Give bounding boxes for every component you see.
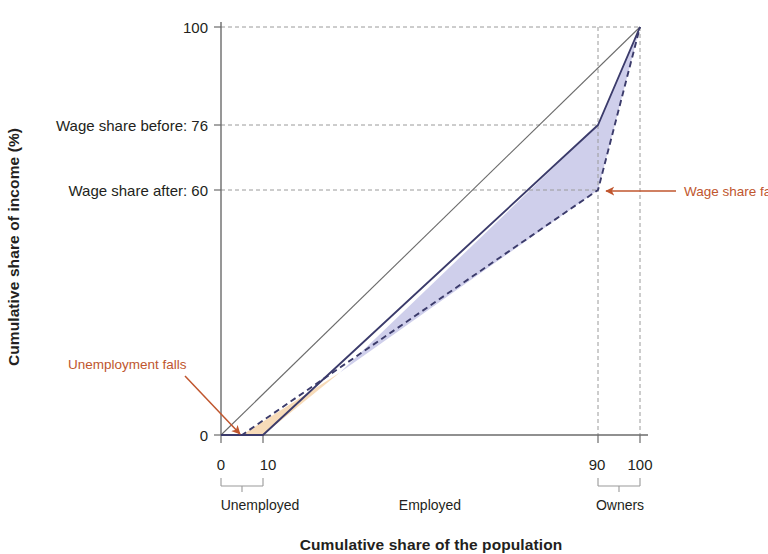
annotation-unemployment-falls-arrow (185, 376, 240, 434)
group-label-employed: Employed (399, 497, 461, 513)
equality-line (221, 27, 640, 435)
y-tick-label-60: Wage share after: 60 (68, 182, 208, 199)
x-tick-label-0: 0 (217, 456, 225, 473)
annotation-wage-share-falls-label: Wage share falls (684, 184, 768, 199)
x-tick-label-10: 10 (260, 456, 277, 473)
region-wage-share-falls (340, 27, 640, 373)
y-tick-label-76: Wage share before: 76 (56, 117, 208, 134)
x-tick-label-90: 90 (589, 456, 606, 473)
lorenz-curve-svg: 100 Wage share before: 76 Wage share aft… (0, 0, 768, 554)
bracket-owners (598, 478, 640, 486)
y-tick-label-100: 100 (183, 19, 208, 36)
chart-container: Cumulative share of income (%) Cumulativ… (0, 0, 768, 554)
region-unemployment-falls (221, 373, 340, 436)
annotation-unemployment-falls-label: Unemployment falls (68, 357, 187, 372)
x-tick-label-100: 100 (627, 456, 652, 473)
bracket-unemployed (221, 478, 263, 486)
group-label-owners: Owners (596, 497, 644, 513)
y-tick-label-0: 0 (200, 427, 208, 444)
group-label-unemployed: Unemployed (221, 497, 300, 513)
